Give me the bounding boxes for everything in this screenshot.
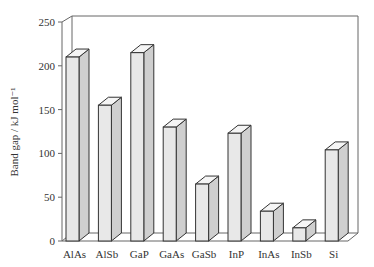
x-category-label: GaSb — [192, 248, 217, 260]
bar — [325, 142, 348, 241]
y-tick-label: 200 — [39, 60, 56, 72]
bar — [196, 176, 219, 241]
bar — [131, 45, 154, 241]
x-category-label: Si — [329, 248, 338, 260]
y-tick-label: 100 — [39, 147, 56, 159]
bar — [66, 49, 89, 241]
x-category-label: AlSb — [96, 248, 119, 260]
bar — [228, 125, 251, 241]
y-tick-label: 250 — [39, 16, 56, 28]
x-category-label: InP — [229, 248, 244, 260]
bar-chart: 050100150200250 AlAsAlSbGaPGaAsGaSbInPIn… — [0, 0, 374, 267]
bar — [163, 119, 186, 241]
bar — [293, 220, 316, 241]
bar — [260, 203, 283, 241]
x-category-label: AlAs — [63, 248, 86, 260]
y-tick-label: 0 — [50, 235, 56, 247]
y-tick-label: 150 — [39, 104, 56, 116]
x-axis-labels: AlAsAlSbGaPGaAsGaSbInPInAsInSbSi — [63, 248, 338, 260]
y-tick-label: 50 — [44, 191, 56, 203]
bars — [66, 45, 348, 241]
x-category-label: GaP — [130, 248, 149, 260]
y-axis-title: Band gap / kJ mol⁻¹ — [8, 87, 20, 176]
x-category-label: InSb — [291, 248, 312, 260]
x-category-label: InAs — [258, 248, 279, 260]
bar — [98, 97, 121, 241]
x-category-label: GaAs — [159, 248, 184, 260]
